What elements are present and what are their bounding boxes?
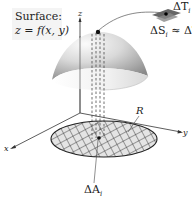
x-axis-label: x [4,145,9,153]
region-label: R [136,106,144,116]
surface-title: Surface: [15,11,62,22]
area-element-label: ΔAi [84,184,102,197]
region-point [97,136,101,140]
region-r [40,110,170,170]
tangent-patch-subscript: i [188,7,190,15]
y-axis-label: y [183,129,188,137]
area-element-subscript: i [100,190,102,197]
area-element-symbol: ΔA [84,183,100,196]
surface-equation: z = f(x, y) [15,25,69,36]
tangent-patch-symbol: ΔT [173,0,188,13]
approx-symbol: ΔS [150,24,165,37]
surface-point [96,30,100,34]
approx-equality: ≈ ΔT [168,24,192,37]
z-axis-label: z [78,10,82,18]
tangent-patch-label: ΔTi [173,1,191,15]
approximation-label: ΔSi ≈ ΔTi [150,25,192,39]
